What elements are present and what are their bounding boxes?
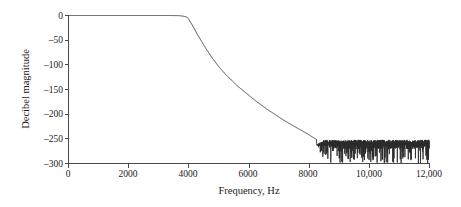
x-tick-label-12000: 12,000	[416, 169, 442, 179]
y-tick-marks	[65, 16, 69, 164]
y-axis-title: Decibel magnitude	[20, 49, 31, 129]
y-tick-label-0: 0	[58, 11, 63, 21]
frequency-response-chart: Decibel magnitude 0 –50 –100 –150 –200 –…	[0, 0, 461, 207]
x-tick-label-2000: 2000	[119, 169, 138, 179]
x-tick-label-10000: 10,000	[356, 169, 382, 179]
x-tick-label-6000: 6000	[239, 169, 258, 179]
x-axis-title: Frequency, Hz	[218, 185, 279, 196]
chart-figure: Decibel magnitude 0 –50 –100 –150 –200 –…	[0, 0, 461, 207]
y-tick-label-50: –50	[48, 35, 64, 45]
x-tick-marks	[69, 164, 430, 168]
y-tick-label-100: –100	[43, 60, 63, 70]
x-tick-label-8000: 8000	[299, 169, 318, 179]
x-tick-label-4000: 4000	[179, 169, 198, 179]
filter-response-curve	[69, 16, 430, 164]
y-tick-label-150: –150	[43, 85, 63, 95]
y-tick-label-300: –300	[43, 159, 63, 169]
y-tick-label-250: –250	[43, 134, 63, 144]
x-tick-label-0: 0	[66, 169, 71, 179]
y-tick-label-200: –200	[43, 109, 63, 119]
